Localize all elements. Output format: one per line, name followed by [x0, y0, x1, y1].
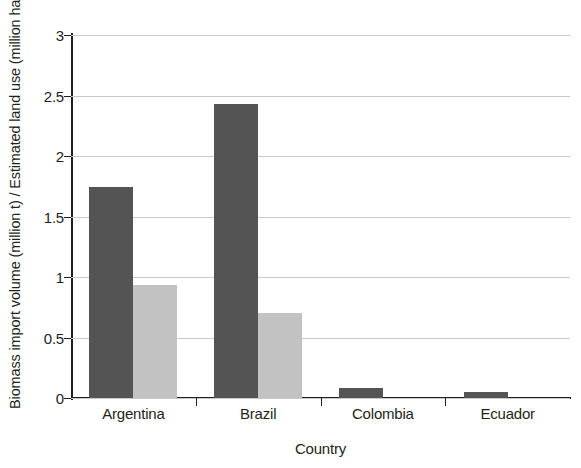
bar-chart: Biomass import volume (million t) / Esti… [0, 0, 581, 468]
x-axis-tick-label: Ecuador [480, 405, 534, 423]
x-axis-tick-label: Brazil [240, 405, 276, 423]
y-axis-tick-mark [64, 398, 71, 399]
y-axis-tick-label: 0.5 [26, 330, 64, 345]
x-axis-title: Country [71, 440, 570, 457]
y-axis-tick-mark [64, 217, 71, 218]
y-axis-tick-label: 1.5 [26, 209, 64, 224]
x-axis-tick-label: Colombia [352, 405, 414, 423]
y-axis-tick-mark [64, 338, 71, 339]
y-axis-tick-label: 1 [26, 270, 64, 285]
y-axis-tick-mark [64, 35, 71, 36]
gridline [71, 96, 570, 97]
y-axis-title: Biomass import volume (million t) / Esti… [2, 0, 28, 404]
bar [258, 313, 302, 398]
y-axis-tick-labels: 00.511.522.53 [26, 0, 64, 468]
x-axis-tick-labels: ArgentinaBrazilColombiaEcuador [71, 405, 570, 431]
y-axis-tick-label: 0 [26, 391, 64, 406]
gridline [71, 217, 570, 218]
y-axis-tick-mark [64, 277, 71, 278]
bar [133, 285, 177, 398]
gridline [71, 35, 570, 36]
gridline [71, 277, 570, 278]
bar [89, 187, 133, 398]
x-axis-tick-label: Argentina [102, 405, 164, 423]
y-axis-tick-label: 2 [26, 149, 64, 164]
plot-area [71, 35, 570, 398]
y-axis-tick-mark [64, 156, 71, 157]
y-axis-tick-label: 2.5 [26, 88, 64, 103]
bar [464, 392, 508, 398]
y-axis-tick-label: 3 [26, 28, 64, 43]
y-axis-tick-mark [64, 96, 71, 97]
gridline [71, 156, 570, 157]
bar [214, 104, 258, 398]
bar [339, 388, 383, 398]
